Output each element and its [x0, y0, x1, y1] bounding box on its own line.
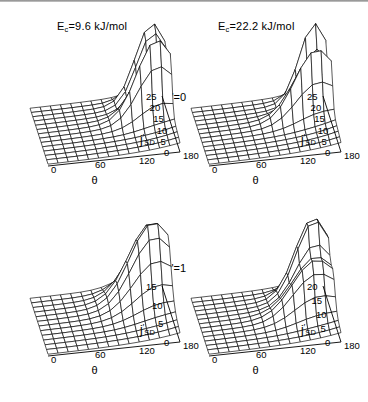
theta-tick-60: 60: [95, 350, 106, 360]
j-tick-15: 15: [146, 282, 157, 292]
theta-tick-60: 60: [256, 350, 267, 360]
axis-label-jsd: j′SD: [140, 323, 155, 337]
axis-label-theta: θ: [92, 174, 98, 186]
j-tick-0: 0: [325, 148, 330, 158]
title-symbol: E: [57, 20, 65, 32]
jsd-subscript: SD: [144, 328, 155, 337]
j-tick-0: 0: [325, 338, 330, 348]
surface-panel-ec96-v0: 2520151050j′SD060120180θ: [18, 48, 193, 198]
j-tick-5: 5: [321, 324, 326, 334]
surface-mesh: [179, 48, 354, 198]
title-value: =9.6 kJ/mol: [69, 20, 128, 32]
j-tick-15: 15: [312, 296, 323, 306]
axis-label-jsd: j′SD: [301, 133, 316, 147]
j-tick-0: 0: [164, 338, 169, 348]
j-tick-10: 10: [157, 126, 168, 136]
column-title-0: Ec=9.6 kJ/mol: [57, 20, 127, 34]
j-tick-10: 10: [318, 126, 329, 136]
theta-tick-120: 120: [300, 346, 316, 356]
axis-label-jsd: j′SD: [140, 133, 155, 147]
title-value: =22.2 kJ/mol: [230, 20, 295, 32]
surface-panel-ec96-v1: 151050j′SD060120180θ: [18, 238, 193, 388]
axis-label-theta: θ: [253, 364, 259, 376]
theta-tick-120: 120: [139, 156, 155, 166]
j-tick-0: 0: [164, 148, 169, 158]
j-tick-5: 5: [158, 319, 163, 329]
j-tick-25: 25: [307, 92, 318, 102]
axis-label-theta: θ: [92, 364, 98, 376]
title-symbol: E: [218, 20, 226, 32]
theta-tick-60: 60: [95, 160, 106, 170]
j-tick-15: 15: [153, 114, 164, 124]
surface-panel-ec222-v1: 20151050j′SD060120180θ: [179, 238, 354, 388]
theta-tick-120: 120: [139, 346, 155, 356]
theta-tick-120: 120: [300, 156, 316, 166]
j-tick-20: 20: [150, 103, 161, 113]
j-tick-20: 20: [307, 282, 318, 292]
j-tick-25: 25: [146, 92, 157, 102]
axis-label-theta: θ: [253, 174, 259, 186]
theta-tick-180: 180: [344, 341, 360, 351]
surface-mesh: [179, 238, 354, 388]
theta-tick-0: 0: [212, 165, 217, 175]
j-tick-15: 15: [314, 114, 325, 124]
j-tick-5: 5: [160, 137, 165, 147]
j-tick-5: 5: [321, 137, 326, 147]
theta-tick-60: 60: [256, 160, 267, 170]
top-divider: [0, 0, 368, 2]
j-tick-10: 10: [316, 310, 327, 320]
jsd-subscript: SD: [144, 138, 155, 147]
j-tick-10: 10: [152, 301, 163, 311]
surface-mesh: [18, 238, 193, 388]
theta-tick-0: 0: [51, 355, 56, 365]
jsd-subscript: SD: [305, 138, 316, 147]
theta-tick-180: 180: [344, 151, 360, 161]
theta-tick-0: 0: [212, 355, 217, 365]
surface-mesh: [18, 48, 193, 198]
theta-tick-0: 0: [51, 165, 56, 175]
surface-panel-ec222-v0: 2520151050j′SD060120180θ: [179, 48, 354, 198]
column-title-1: Ec=22.2 kJ/mol: [218, 20, 295, 34]
jsd-subscript: SD: [305, 328, 316, 337]
j-tick-20: 20: [311, 103, 322, 113]
axis-label-jsd: j′SD: [301, 323, 316, 337]
